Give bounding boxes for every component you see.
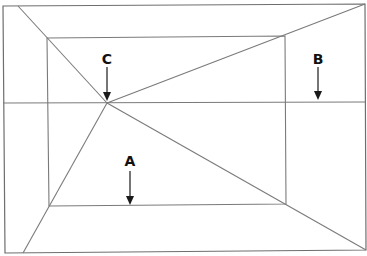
arrowhead-a xyxy=(126,196,134,205)
label-a: A xyxy=(125,153,136,169)
label-b: B xyxy=(313,51,324,67)
orthogonal-bottom-right xyxy=(107,103,366,250)
perspective-diagram: C B A xyxy=(0,0,367,256)
orthogonal-top-left xyxy=(18,6,107,103)
horizon-line xyxy=(3,102,365,103)
arrowhead-b xyxy=(314,91,322,100)
orthogonal-bottom-left xyxy=(23,103,107,253)
outer-frame xyxy=(3,4,366,253)
orthogonal-top-right xyxy=(107,4,365,103)
back-wall-rect xyxy=(47,36,286,206)
label-c: C xyxy=(102,51,112,67)
